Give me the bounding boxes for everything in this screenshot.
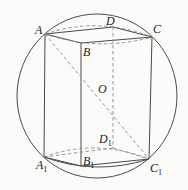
label-C1-sub: 1 — [158, 168, 162, 177]
label-D1-sub: 1 — [108, 139, 112, 148]
label-A1: A1 — [35, 158, 47, 174]
edge-D1C1-hidden — [113, 148, 149, 159]
label-B: B — [83, 45, 91, 59]
label-C: C — [153, 22, 162, 36]
sphere-cuboid-diagram: A B C D O D1 A1 B1 C1 — [0, 0, 188, 190]
label-D1-main: D — [98, 132, 108, 146]
edge-CC1 — [149, 37, 152, 159]
edge-A1D1-hidden — [44, 148, 113, 157]
label-D1: D1 — [98, 132, 112, 148]
edge-AA1 — [44, 34, 45, 157]
label-O: O — [98, 82, 107, 96]
top-circle-back-arc — [45, 26, 152, 37]
top-circle-front-arc — [45, 34, 152, 44]
label-B1-sub: 1 — [90, 161, 94, 170]
label-D: D — [105, 14, 115, 28]
edge-DC — [113, 27, 152, 37]
edge-AD — [45, 27, 113, 34]
bottom-circle-back-arc — [44, 148, 149, 159]
label-A: A — [34, 23, 43, 37]
bottom-circle-front-arc — [44, 157, 149, 167]
diagonal-AC1 — [45, 34, 149, 159]
label-B1: B1 — [83, 154, 94, 170]
label-A1-sub: 1 — [43, 165, 47, 174]
diagram-canvas: A B C D O D1 A1 B1 C1 — [0, 0, 188, 190]
label-C1: C1 — [150, 161, 162, 177]
